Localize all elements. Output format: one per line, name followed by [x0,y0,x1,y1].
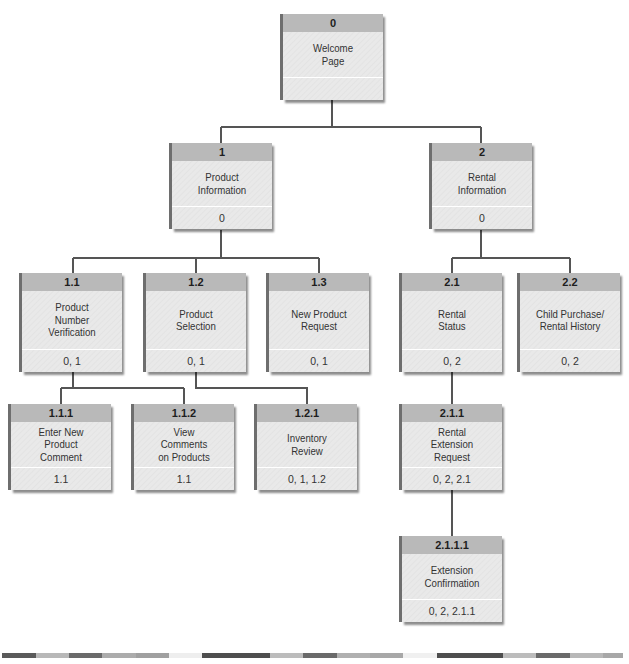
node-parents: 0, 2 [520,349,620,372]
node-id: 2.1 [402,273,502,291]
node-id: 2.1.1 [402,404,502,422]
node-1-1-1-enter-new-product-comment: 1.1.1 Enter New Product Comment 1.1 [11,404,111,490]
node-parents: 1.1 [11,467,111,490]
node-title: Extension Confirmation [406,554,498,599]
node-title: Rental Information [436,161,528,206]
node-id: 2.2 [520,273,620,291]
node-1-1-product-number-verification: 1.1 Product Number Verification 0, 1 [22,273,122,372]
node-title: Product Selection [150,291,242,349]
node-title: Rental Extension Request [406,422,498,467]
node-2-1-1-1-extension-confirmation: 2.1.1.1 Extension Confirmation 0, 2, 2.1… [402,536,502,622]
node-parents [283,77,383,100]
node-id: 1.1.1 [11,404,111,422]
node-2-1-rental-status: 2.1 Rental Status 0, 2 [402,273,502,372]
node-parents: 0, 1 [269,349,369,372]
node-1-2-product-selection: 1.2 Product Selection 0, 1 [146,273,246,372]
node-title: Product Information [176,161,268,206]
node-title: Product Number Verification [26,291,118,349]
node-title: Inventory Review [261,422,353,467]
node-title: Enter New Product Comment [15,422,107,467]
node-1-1-2-view-comments-on-products: 1.1.2 View Comments on Products 1.1 [134,404,234,490]
node-parents: 0, 2, 2.1 [402,467,502,490]
node-title: View Comments on Products [138,422,230,467]
node-parents: 0 [432,206,532,229]
node-title: New Product Request [273,291,365,349]
node-title: Welcome Page [287,32,379,77]
node-0-welcome-page: 0 Welcome Page [283,14,383,100]
node-parents: 0, 2 [402,349,502,372]
node-2-1-1-rental-extension-request: 2.1.1 Rental Extension Request 0, 2, 2.1 [402,404,502,490]
node-id: 1.1 [22,273,122,291]
node-parents: 0, 1 [22,349,122,372]
node-id: 1.2 [146,273,246,291]
node-parents: 0 [172,206,272,229]
node-parents: 0, 1 [146,349,246,372]
node-2-rental-information: 2 Rental Information 0 [432,143,532,229]
node-2-2-child-purchase-rental-history: 2.2 Child Purchase/ Rental History 0, 2 [520,273,620,372]
node-id: 1.2.1 [257,404,357,422]
node-id: 1.1.2 [134,404,234,422]
node-parents: 1.1 [134,467,234,490]
node-1-2-1-inventory-review: 1.2.1 Inventory Review 0, 1, 1.2 [257,404,357,490]
node-title: Child Purchase/ Rental History [524,291,616,349]
node-1-product-information: 1 Product Information 0 [172,143,272,229]
node-parents: 0, 1, 1.2 [257,467,357,490]
node-title: Rental Status [406,291,498,349]
node-1-3-new-product-request: 1.3 New Product Request 0, 1 [269,273,369,372]
node-id: 0 [283,14,383,32]
node-id: 2.1.1.1 [402,536,502,554]
node-id: 1 [172,143,272,161]
node-parents: 0, 2, 2.1.1 [402,599,502,622]
node-id: 1.3 [269,273,369,291]
node-id: 2 [432,143,532,161]
